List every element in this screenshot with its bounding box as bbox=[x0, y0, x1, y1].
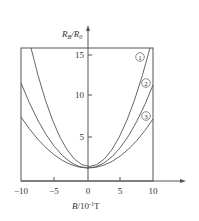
x-tick-neg5: −5 bbox=[49, 186, 59, 196]
chart: 15 10 5 −10 −5 0 5 10 RB/R0 B/10-1T 1 2 … bbox=[0, 0, 199, 221]
y-tick-15: 15 bbox=[75, 50, 85, 60]
plot-frame bbox=[21, 48, 153, 181]
x-tick-10: 10 bbox=[149, 186, 159, 196]
curve-2 bbox=[21, 83, 153, 168]
y-axis-title: RB/R0 bbox=[61, 29, 82, 40]
x-axis-title: B/10-1T bbox=[72, 201, 100, 211]
x-tick-0: 0 bbox=[86, 186, 91, 196]
y-tick-10: 10 bbox=[75, 90, 85, 100]
x-tick-neg10: −10 bbox=[14, 186, 29, 196]
y-ticks: 15 10 5 bbox=[75, 50, 92, 142]
x-ticks: −10 −5 0 5 10 bbox=[14, 177, 158, 196]
series-marker-1: 1 bbox=[136, 53, 145, 62]
x-tick-5: 5 bbox=[118, 186, 123, 196]
series-marker-3: 3 bbox=[142, 112, 151, 121]
svg-text:1: 1 bbox=[138, 54, 142, 62]
series-marker-2: 2 bbox=[142, 79, 151, 88]
y-axis-arrow-icon bbox=[86, 25, 90, 31]
curve-3 bbox=[21, 117, 153, 168]
curve-1 bbox=[31, 48, 150, 167]
svg-text:3: 3 bbox=[144, 113, 148, 121]
x-axis-arrow-icon bbox=[180, 179, 186, 183]
y-tick-5: 5 bbox=[80, 132, 85, 142]
svg-text:2: 2 bbox=[144, 80, 148, 88]
